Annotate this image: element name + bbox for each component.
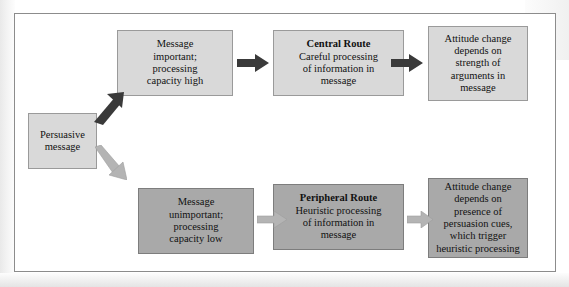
diagram-canvas: Persuasive message Messageimportant;proc… [0, 0, 569, 287]
node-central-route-body: Careful processingof information inmessa… [299, 51, 378, 87]
node-attitude-change-cues: Attitude changedepends onpresence ofpers… [428, 178, 528, 258]
node-message-unimportant: Messageunimportant;processingcapacity lo… [138, 188, 254, 254]
node-persuasive-message: Persuasive message [28, 113, 97, 169]
node-central-route: Central Route Careful processingof infor… [273, 30, 404, 96]
arrow-source-to-message-important [94, 92, 124, 125]
node-attitude-change-arguments-label: Attitude changedepends onstrength ofargu… [433, 33, 523, 94]
arrow-source-to-message-unimportant [95, 145, 127, 180]
node-peripheral-route-title: Peripheral Route [278, 192, 399, 204]
arrow-message-unimportant-to-peripheral-route [257, 211, 287, 228]
node-message-important: Messageimportant;processingcapacity high [117, 30, 233, 96]
node-persuasive-message-label: Persuasive message [33, 129, 92, 154]
node-peripheral-route-body: Heuristic processingof information inmes… [295, 205, 381, 241]
scan-edge-left [0, 0, 15, 287]
node-attitude-change-cues-label: Attitude changedepends onpresence ofpers… [433, 181, 523, 255]
arrow-peripheral-route-to-attitude-change [407, 211, 433, 228]
arrow-message-important-to-central-route [237, 54, 269, 72]
arrow-central-route-to-attitude-change [391, 54, 423, 72]
node-central-route-title: Central Route [278, 38, 399, 50]
scan-edge-bottom [0, 273, 569, 287]
node-message-unimportant-label: Messageunimportant;processingcapacity lo… [143, 196, 249, 245]
node-peripheral-route: Peripheral Route Heuristic processingof … [273, 184, 404, 250]
node-message-important-label: Messageimportant;processingcapacity high [122, 38, 228, 87]
node-attitude-change-arguments: Attitude changedepends onstrength ofargu… [428, 26, 528, 101]
